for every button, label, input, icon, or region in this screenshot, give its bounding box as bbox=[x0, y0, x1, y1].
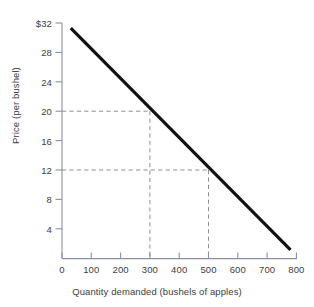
x-tick-label-100: 100 bbox=[83, 264, 99, 275]
y-tick-label-8: 8 bbox=[26, 194, 52, 205]
x-tick-label-800: 800 bbox=[288, 264, 304, 275]
x-tick-label-0: 0 bbox=[59, 264, 64, 275]
y-tick-label-32: $32 bbox=[26, 18, 52, 29]
y-axis-ticks bbox=[56, 23, 63, 229]
y-tick-label-28: 28 bbox=[26, 47, 52, 58]
y-tick-label-16: 16 bbox=[26, 135, 52, 146]
x-tick-label-300: 300 bbox=[142, 264, 158, 275]
y-tick-label-4: 4 bbox=[26, 223, 52, 234]
x-tick-label-400: 400 bbox=[171, 264, 187, 275]
y-tick-label-12: 12 bbox=[26, 165, 52, 176]
x-tick-label-200: 200 bbox=[113, 264, 129, 275]
x-tick-label-700: 700 bbox=[259, 264, 275, 275]
x-axis-ticks bbox=[62, 252, 296, 258]
demand-curve-line bbox=[71, 28, 291, 250]
x-tick-label-600: 600 bbox=[230, 264, 246, 275]
guide-lines-p12-q500 bbox=[62, 170, 209, 259]
y-tick-label-24: 24 bbox=[26, 76, 52, 87]
y-axis-title: Price (per bushel) bbox=[10, 46, 21, 166]
x-axis-title: Quantity demanded (bushels of apples) bbox=[0, 286, 314, 297]
demand-curve-chart: $32 28 24 20 16 12 8 4 0 100 200 300 400… bbox=[0, 0, 314, 307]
x-tick-label-500: 500 bbox=[200, 264, 216, 275]
guide-lines-p20-q300 bbox=[62, 111, 150, 258]
y-tick-label-20: 20 bbox=[26, 106, 52, 117]
